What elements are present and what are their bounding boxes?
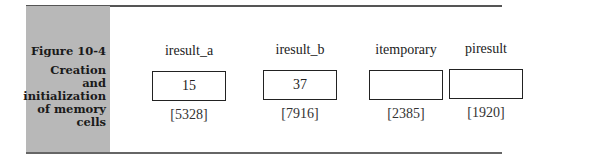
figure-title-line: Creation and — [23, 64, 106, 90]
figure-frame: Figure 10-4 Creation and initialization … — [26, 5, 502, 155]
cell-box — [449, 69, 523, 99]
cell-box: 15 — [152, 71, 226, 101]
cell-address: [7916] — [245, 106, 355, 122]
cell-box: 37 — [263, 70, 337, 100]
caption-panel: Figure 10-4 Creation and initialization … — [26, 6, 110, 153]
memory-cell-iresult-b: iresult_b 37 [7916] — [245, 42, 355, 122]
figure-title-line: cells — [23, 116, 106, 129]
cell-name: iresult_a — [134, 43, 244, 61]
bottom-rule — [26, 152, 502, 154]
figure-number: Figure 10-4 — [23, 44, 106, 58]
cell-name: iresult_b — [245, 42, 355, 60]
memory-cell-piresult: piresult [1920] — [431, 41, 541, 121]
cell-name: piresult — [431, 41, 541, 59]
cell-address: [1920] — [431, 105, 541, 121]
figure-caption: Figure 10-4 Creation and initialization … — [23, 44, 106, 129]
cell-address: [5328] — [134, 107, 244, 123]
memory-cell-iresult-a: iresult_a 15 [5328] — [134, 43, 244, 123]
